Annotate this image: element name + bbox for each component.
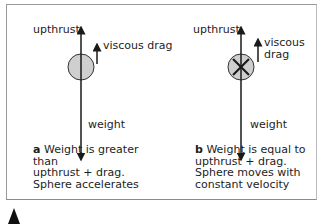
caption-b-line3: Sphere moves with [195, 167, 320, 179]
label-upthrust-a: upthrust [33, 24, 80, 36]
panel-b-diagram [228, 30, 258, 157]
label-viscous-drag-a: viscous drag [103, 40, 173, 52]
caption-b: b Weight is equal to upthrust + drag. Sp… [195, 144, 320, 190]
caption-a-line1: Weight is greater than [33, 143, 138, 168]
label-weight-a: weight [88, 119, 125, 131]
caption-a-line3: Sphere accelerates [33, 179, 163, 191]
label-drag-b: drag [264, 49, 289, 61]
panel-a-diagram [68, 30, 97, 157]
caption-b-line4: constant velocity [195, 179, 320, 191]
triangle-marker-icon [8, 208, 20, 224]
label-weight-b: weight [250, 119, 287, 131]
label-upthrust-b: upthrust [193, 24, 240, 36]
caption-a: a Weight is greater than upthrust + drag… [33, 144, 163, 190]
caption-a-line2: upthrust + drag. [33, 167, 163, 179]
